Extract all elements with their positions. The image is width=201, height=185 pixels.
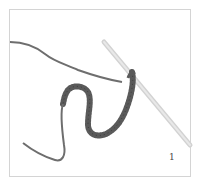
crochet-chain xyxy=(63,72,133,136)
yarn-tail-top xyxy=(10,42,122,82)
yarn-tail-bottom xyxy=(23,104,65,160)
step-number-label: 1 xyxy=(169,152,175,162)
